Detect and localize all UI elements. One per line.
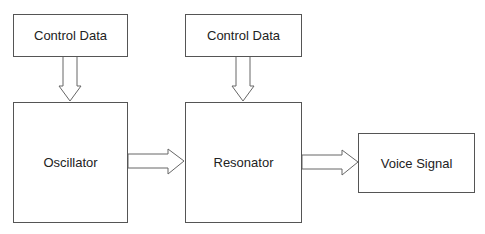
resonator-box: Resonator — [185, 102, 302, 223]
arrow-control-to-oscillator — [59, 56, 81, 101]
control-data-box-1: Control Data — [13, 14, 128, 57]
oscillator-label: Oscillator — [43, 155, 97, 170]
voice-signal-box: Voice Signal — [358, 133, 475, 193]
oscillator-box: Oscillator — [13, 102, 128, 223]
control-data-label-1: Control Data — [34, 28, 107, 43]
control-data-label-2: Control Data — [207, 28, 280, 43]
control-data-box-2: Control Data — [185, 14, 302, 57]
arrow-oscillator-to-resonator — [128, 149, 184, 174]
arrow-control-to-resonator — [232, 56, 254, 101]
arrow-resonator-to-voice-signal — [302, 150, 358, 175]
resonator-label: Resonator — [214, 155, 274, 170]
voice-signal-label: Voice Signal — [381, 156, 453, 171]
